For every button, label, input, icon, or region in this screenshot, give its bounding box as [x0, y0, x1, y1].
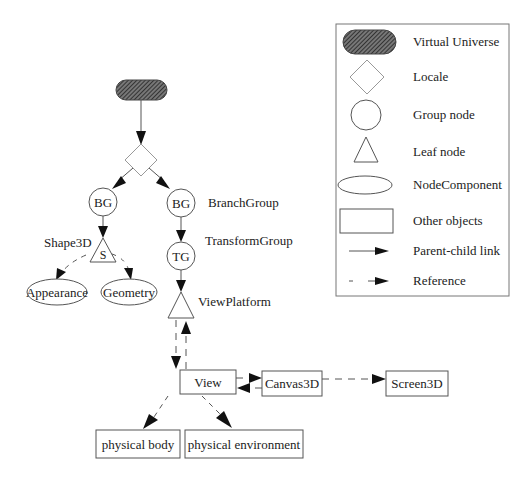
other-objects-rectangle-swatch [340, 209, 393, 233]
edge-viewplatform-to-view [171, 320, 181, 369]
edge-bg-to-tg [176, 217, 186, 242]
physical-body-node: physical body [96, 430, 180, 458]
legend-label: NodeComponent [413, 177, 502, 192]
legend-item-nodecomponent: NodeComponent [338, 176, 502, 194]
geometry-node: Geometry [101, 279, 157, 305]
physical-environment-label: physical environment [188, 437, 301, 452]
bg-left-label: BG [94, 195, 112, 210]
view-label: View [194, 375, 222, 390]
viewplatform-node [168, 292, 194, 318]
edge-locale-to-bg-left [112, 168, 133, 189]
bg-right-label: BG [172, 196, 190, 211]
shape3d-caption: Shape3D [44, 235, 92, 250]
viewplatform-caption: ViewPlatform [198, 294, 271, 309]
scene-graph-diagram: BG BG BranchGroup S Shape3D Appearance G… [0, 0, 529, 485]
bg-right-node: BG [167, 189, 195, 217]
legend: Virtual Universe Locale Group node Leaf … [336, 24, 509, 296]
edge-bg-to-shape3d [98, 216, 108, 238]
edge-view-to-canvas3d [236, 373, 262, 383]
appearance-node: Appearance [26, 279, 88, 305]
physical-environment-node: physical environment [185, 430, 303, 458]
shape3d-label: S [100, 248, 107, 262]
physical-body-label: physical body [102, 437, 175, 452]
branchgroup-caption: BranchGroup [208, 195, 279, 210]
legend-label: Virtual Universe [413, 34, 499, 49]
geometry-label: Geometry [103, 285, 155, 300]
virtual-universe-swatch [343, 30, 396, 54]
edge-locale-to-bg-right [149, 168, 170, 189]
legend-label: Locale [413, 69, 449, 84]
edge-tg-to-viewplatform [176, 270, 186, 292]
edge-view-to-physical-environment [202, 396, 232, 428]
virtual-universe-node [116, 80, 167, 100]
nodecomponent-ellipse-swatch [338, 176, 392, 194]
edge-canvas3d-to-view [237, 383, 262, 393]
legend-label: Reference [413, 273, 466, 288]
legend-label: Other objects [413, 213, 483, 228]
shape3d-node: S [90, 238, 116, 262]
canvas3d-label: Canvas3D [265, 376, 319, 391]
edge-shape3d-to-geometry [112, 254, 133, 280]
tg-node: TG [167, 242, 195, 270]
screen3d-node: Screen3D [386, 371, 448, 396]
view-node: View [180, 370, 236, 394]
edge-shape3d-to-appearance [56, 255, 86, 280]
edge-view-to-viewplatform [181, 321, 191, 369]
bg-left-node: BG [89, 188, 117, 216]
edge-canvas3d-to-screen3d [322, 374, 386, 384]
edge-vu-to-locale [136, 100, 146, 145]
legend-label: Group node [413, 107, 475, 122]
legend-label: Leaf node [413, 144, 466, 159]
legend-label: Parent-child link [413, 243, 501, 258]
group-node-circle-swatch [351, 100, 381, 130]
appearance-label: Appearance [26, 285, 88, 300]
canvas3d-node: Canvas3D [262, 371, 322, 396]
transformgroup-caption: TransformGroup [205, 233, 293, 248]
screen3d-label: Screen3D [391, 376, 442, 391]
edge-view-to-physical-body [143, 396, 168, 429]
tg-label: TG [172, 249, 189, 264]
